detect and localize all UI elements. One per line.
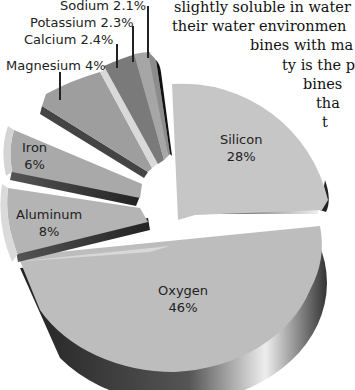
- label-oxygen-name: Oxygen: [158, 282, 208, 299]
- label-oxygen-pct: 46%: [158, 299, 208, 316]
- label-potassium: Potassium 2.3%: [30, 14, 134, 31]
- label-aluminum-pct: 8%: [16, 223, 82, 240]
- label-sodium: Sodium 2.1%: [60, 0, 146, 14]
- label-silicon: Silicon 28%: [220, 131, 262, 165]
- leader-line-sodium: [147, 6, 149, 58]
- label-iron-name: Iron: [22, 139, 47, 156]
- label-aluminum-name: Aluminum: [16, 206, 82, 223]
- label-oxygen: Oxygen 46%: [158, 282, 208, 316]
- leader-line-calcium: [116, 44, 118, 68]
- label-aluminum: Aluminum 8%: [16, 206, 82, 240]
- leader-line-magnesium: [59, 72, 61, 100]
- label-iron: Iron 6%: [22, 139, 47, 173]
- leader-line-potassium: [132, 26, 134, 62]
- label-calcium: Calcium 2.4%: [24, 31, 113, 48]
- label-silicon-name: Silicon: [220, 131, 262, 148]
- label-magnesium: Magnesium 4%: [6, 57, 106, 74]
- label-silicon-pct: 28%: [220, 148, 262, 165]
- label-iron-pct: 6%: [22, 156, 47, 173]
